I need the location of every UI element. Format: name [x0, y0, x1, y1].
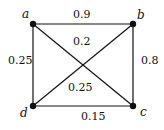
node-label-d: d: [20, 106, 28, 120]
edge-weight-b-c: 0.8: [141, 54, 159, 67]
edge-weight-a-b: 0.9: [73, 8, 91, 21]
node-label-a: a: [22, 7, 29, 21]
node-c: [130, 103, 136, 109]
edge-weight-a-c: 0.25: [68, 81, 93, 94]
node-d: [30, 103, 36, 109]
node-label-c: c: [140, 105, 147, 119]
edge-weight-b-d: 0.2: [73, 35, 91, 48]
edge-weight-d-a: 0.25: [8, 54, 33, 67]
node-b: [130, 21, 136, 27]
edge-weight-c-d: 0.15: [81, 110, 106, 123]
node-a: [30, 21, 36, 27]
weighted-graph: a b c d 0.9 0.8 0.15 0.25 0.2 0.25: [0, 0, 164, 130]
node-label-b: b: [137, 8, 145, 22]
